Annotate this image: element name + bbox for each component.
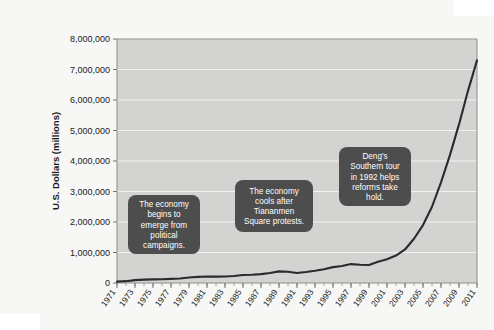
annotation-political-campaigns: The economybegins toemerge frompolitical… <box>128 195 200 254</box>
y-tick-label: 6,000,000 <box>70 95 110 105</box>
callout-text-line: reforms take <box>352 183 398 192</box>
callout-text-line: hold. <box>366 193 384 202</box>
y-axis-title: U.S. Dollars (millions) <box>50 112 61 210</box>
x-axis-ticks <box>117 283 477 288</box>
callout-text-line: The economy <box>139 200 190 209</box>
line-chart-figure: 01,000,0002,000,0003,000,0004,000,0005,0… <box>40 16 494 330</box>
callout-text-line: The economy <box>249 187 300 196</box>
y-tick-label: 3,000,000 <box>70 187 110 197</box>
y-tick-label: 5,000,000 <box>70 126 110 136</box>
y-tick-label: 1,000,000 <box>70 248 110 258</box>
y-tick-label: 0 <box>105 278 110 288</box>
callout-text-line: begins to <box>147 210 181 219</box>
callout-text-line: Southern tour <box>350 162 400 171</box>
callout-text-line: political <box>150 231 177 240</box>
callout-text-line: campaigns. <box>143 241 185 250</box>
chart-canvas: 01,000,0002,000,0003,000,0004,000,0005,0… <box>40 16 494 330</box>
annotation-tiananmen: The economycools afterTiananmenSquare pr… <box>235 180 313 232</box>
callout-text-line: in 1992 helps <box>351 173 400 182</box>
callout-text-line: emerge from <box>141 221 188 230</box>
callout-text-line: cools after <box>255 197 293 206</box>
y-tick-label: 2,000,000 <box>70 217 110 227</box>
y-tick-label: 7,000,000 <box>70 65 110 75</box>
y-tick-label: 4,000,000 <box>70 156 110 166</box>
callout-text-line: Tiananmen <box>254 207 295 216</box>
y-tick-label: 8,000,000 <box>70 34 110 44</box>
callout-text-line: Square protests. <box>244 217 304 226</box>
annotation-deng-southern-tour: Deng'sSouthern tourin 1992 helpsreforms … <box>339 147 411 206</box>
callout-text-line: Deng's <box>362 152 387 161</box>
y-axis-tick-labels: 01,000,0002,000,0003,000,0004,000,0005,0… <box>70 34 110 288</box>
